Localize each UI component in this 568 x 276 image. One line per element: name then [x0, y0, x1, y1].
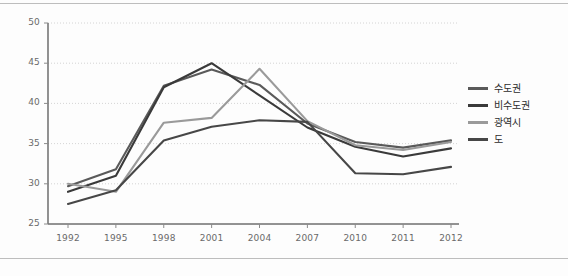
legend-swatch-icon [468, 121, 488, 124]
legend-label: 수도권 [494, 83, 521, 95]
y-tick-label: 50 [18, 17, 40, 27]
series-line-비수도권 [68, 63, 451, 192]
series-line-수도권 [68, 70, 451, 187]
x-tick-label: 2012 [431, 233, 471, 243]
y-tick-label: 25 [18, 218, 40, 228]
legend-item[interactable]: 광역시 [468, 114, 564, 131]
y-tick-label: 35 [18, 138, 40, 148]
legend-swatch-icon [468, 104, 488, 107]
x-tick-label: 2001 [192, 233, 232, 243]
x-tick-label: 2010 [335, 233, 375, 243]
x-tick-label: 2004 [240, 233, 280, 243]
legend-item[interactable]: 수도권 [468, 80, 564, 97]
legend-label: 도 [494, 134, 503, 146]
y-tick-label: 40 [18, 97, 40, 107]
x-tick-label: 1998 [144, 233, 184, 243]
legend-label: 비수도권 [494, 100, 530, 112]
chart-legend: 수도권비수도권광역시도 [468, 80, 564, 148]
legend-label: 광역시 [494, 117, 521, 129]
chart-screenshot: 504540353025 199219951998200120042007201… [0, 0, 568, 276]
legend-item[interactable]: 비수도권 [468, 97, 564, 114]
y-tick-label: 45 [18, 57, 40, 67]
x-tick-label: 1995 [96, 233, 136, 243]
y-tick-label: 30 [18, 178, 40, 188]
legend-swatch-icon [468, 138, 488, 141]
series-line-도 [68, 120, 451, 204]
x-tick-label: 2007 [287, 233, 327, 243]
x-tick-label: 1992 [48, 233, 88, 243]
legend-item[interactable]: 도 [468, 131, 564, 148]
legend-swatch-icon [468, 87, 488, 90]
x-tick-label: 2011 [383, 233, 423, 243]
